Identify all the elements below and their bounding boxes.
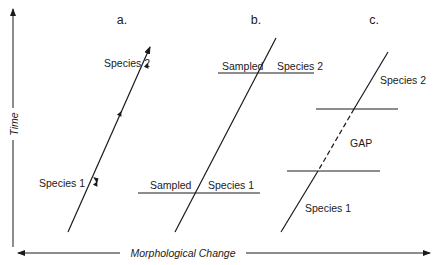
panel-a-species-1-label: Species 1 [39,177,85,189]
panel-c-lineage-gap-dashed [318,109,354,171]
panel-c-species-2-label: Species 2 [380,74,426,86]
panel-c-species-1-label: Species 1 [305,202,351,214]
evolution-diagram: Time Morphological Change a. Species 2 S… [0,0,437,265]
panel-b-species-1-label: Species 1 [208,179,254,191]
panel-c: c. Species 2 GAP Species 1 [281,13,426,232]
panel-a-label: a. [117,13,127,27]
time-axis-label: Time [8,112,20,135]
panel-b-upper-sampled-label: Sampled [222,60,264,72]
morphology-axis-label: Morphological Change [130,247,235,259]
morphology-axis: Morphological Change [18,247,430,259]
panel-b-label: b. [251,13,261,27]
panel-a: a. Species 2 Species 1 [39,13,151,232]
panel-a-species-2-label: Species 2 [104,57,150,69]
panel-c-label: c. [369,13,379,27]
panel-b-species-2-label: Species 2 [277,60,323,72]
panel-a-arrow-icon [117,110,124,117]
time-axis: Time [8,9,20,247]
panel-c-gap-label: GAP [350,137,372,149]
panel-b-lower-sampled-label: Sampled [150,179,192,191]
panel-a-lineage-line [68,47,150,232]
panel-b: b. Sampled Species 2 Sampled Species 1 [138,13,323,232]
